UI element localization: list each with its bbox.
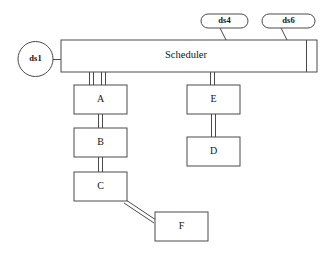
box-c-label: C [97,180,104,191]
box-a[interactable]: A [74,85,127,114]
box-f[interactable]: F [155,212,208,241]
diagram-canvas: Scheduler ds1 ds4 ds6 A B [0,0,333,261]
ds4-label: ds4 [218,15,231,25]
connector-b-c [98,157,102,172]
datastore-ds1[interactable]: ds1 [18,42,53,77]
ds6-label: ds6 [282,15,294,25]
box-e[interactable]: E [187,85,240,114]
datastore-ds4[interactable]: ds4 [201,14,248,28]
datastore-ds6[interactable]: ds6 [262,14,315,28]
box-d-label: D [210,145,217,156]
box-f-label: F [179,220,185,231]
box-d[interactable]: D [187,137,240,166]
box-b-label: B [97,136,104,147]
box-e-label: E [210,93,216,104]
connector-c-f [124,200,156,223]
connector-scheduler-e [210,72,214,85]
scheduler-diagram: Scheduler ds1 ds4 ds6 A B [0,0,333,261]
scheduler-node[interactable]: Scheduler [61,40,317,72]
connector-e-d [211,114,215,137]
ds1-label: ds1 [29,53,41,63]
connector-scheduler-a-left [89,72,93,85]
connector-ds4-scheduler [220,28,226,40]
scheduler-label: Scheduler [165,49,207,60]
connector-scheduler-a-right [101,72,105,85]
connector-ds6-scheduler [281,28,287,40]
box-a-label: A [97,93,105,104]
box-b[interactable]: B [74,128,127,157]
box-c[interactable]: C [74,172,127,201]
connector-a-b [98,114,102,128]
